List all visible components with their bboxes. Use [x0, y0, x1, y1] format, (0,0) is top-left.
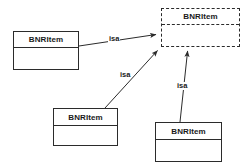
uml-class-name-superclass: BNRItem — [162, 9, 239, 25]
uml-class-name-subclass-center: BNRItem — [54, 109, 117, 126]
uml-class-body-superclass — [162, 25, 239, 47]
uml-class-name-subclass-right: BNRItem — [156, 123, 221, 140]
uml-class-subclass-left[interactable]: BNRItem — [13, 31, 79, 70]
uml-inheritance-diagram: BNRItem BNRItem BNRItem BNRItem isa isa … — [0, 0, 250, 167]
uml-class-body-subclass-left — [14, 48, 78, 70]
uml-class-subclass-center[interactable]: BNRItem — [53, 108, 118, 146]
isa-label-right: isa — [176, 82, 188, 90]
uml-class-body-subclass-right — [156, 140, 221, 162]
isa-label-center: isa — [119, 71, 131, 79]
isa-edge-center — [105, 51, 158, 109]
isa-label-left: isa — [108, 35, 120, 43]
uml-class-name-subclass-left: BNRItem — [14, 32, 78, 48]
uml-class-subclass-right[interactable]: BNRItem — [155, 122, 222, 162]
uml-class-body-subclass-center — [54, 126, 117, 146]
uml-class-superclass[interactable]: BNRItem — [161, 8, 240, 47]
